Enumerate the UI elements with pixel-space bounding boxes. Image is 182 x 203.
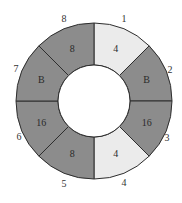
segment-value-5: 8 [70, 148, 75, 159]
ring-diagram-canvas: 4B164816B8 12345678 [0, 0, 182, 203]
segment-value-4: 4 [113, 148, 118, 159]
ring-diagram: 4B164816B8 12345678 [0, 0, 182, 203]
outer-label-4: 4 [122, 177, 127, 188]
center-hole [58, 65, 130, 137]
outer-label-8: 8 [62, 13, 67, 24]
segment-value-6: 16 [36, 117, 46, 128]
outer-label-5: 5 [62, 178, 67, 189]
segment-value-1: 4 [113, 43, 118, 54]
segment-value-7: B [38, 74, 45, 85]
segment-value-2: B [143, 74, 150, 85]
outer-label-3: 3 [165, 132, 170, 143]
segment-value-3: 16 [142, 117, 152, 128]
outer-label-6: 6 [17, 131, 22, 142]
outer-label-7: 7 [14, 63, 19, 74]
segment-value-8: 8 [70, 43, 75, 54]
outer-label-2: 2 [168, 64, 173, 75]
outer-label-1: 1 [122, 13, 127, 24]
